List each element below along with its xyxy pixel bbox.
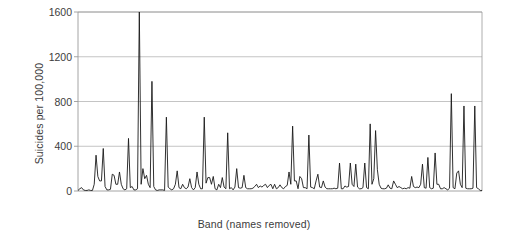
y-axis-tick-label: 1200 bbox=[36, 52, 72, 63]
y-axis-tick-label: 400 bbox=[36, 141, 72, 152]
y-axis-tick-label: 1600 bbox=[36, 7, 72, 18]
chart-figure: Suicides per 100,000 040080012001600 Ban… bbox=[0, 0, 508, 239]
x-axis-label: Band (names removed) bbox=[0, 218, 508, 230]
y-axis-tick-labels: 040080012001600 bbox=[32, 0, 72, 239]
y-axis-tick-label: 800 bbox=[36, 97, 72, 108]
y-axis-tick-label: 0 bbox=[36, 186, 72, 197]
